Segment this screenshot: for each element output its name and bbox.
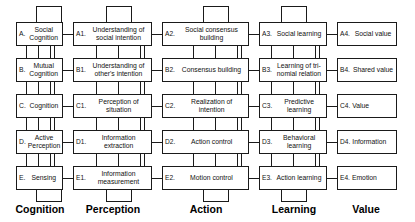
node-A1-label: Understanding of social intention	[88, 26, 149, 42]
node-B2-tag: B2.	[165, 66, 177, 73]
hconn-a-1-2	[63, 34, 73, 35]
node-A1[interactable]: A1. Understanding of social intention	[73, 22, 152, 46]
node-D2-tag: D2.	[165, 138, 177, 145]
node-C2-tag: C2.	[165, 102, 177, 109]
hconn-c-1-2	[63, 106, 73, 107]
column-caption-cognition: Cognition	[10, 203, 70, 215]
node-E4-tag: E4.	[340, 174, 352, 181]
loop-top-perception	[106, 6, 132, 22]
node-B-text: B.	[19, 66, 27, 74]
column-caption-action: Action	[178, 203, 234, 215]
hconn-a-2-3	[152, 34, 162, 35]
hconn-e-2-3	[152, 178, 162, 179]
node-E1-tag: E1.	[76, 174, 88, 181]
node-D2[interactable]: D2. Action control	[162, 130, 249, 154]
node-C4-tag: C4.	[340, 102, 352, 109]
loop-bottom-cognition	[36, 189, 62, 202]
node-D-label: Active Perception	[28, 134, 61, 150]
node-D1[interactable]: D1. Information extraction	[73, 130, 152, 154]
node-A2-tag: A2.	[165, 30, 177, 37]
node-E[interactable]: E. Sensing	[16, 166, 63, 190]
node-C3-label: Predictive learning	[274, 98, 324, 114]
node-B1[interactable]: B1. Understanding of other's intention	[73, 58, 152, 82]
node-B1-tag: B1.	[76, 66, 88, 73]
node-E1-label: Information measurement	[88, 170, 149, 186]
node-C1-tag: C1.	[76, 102, 88, 109]
node-B4-label: Shared value	[352, 66, 394, 74]
node-A2-label: Social consensus building	[177, 26, 246, 42]
hconn-d-3-4	[249, 142, 259, 143]
node-D3-tag: D3.	[262, 138, 274, 145]
node-E3-tag: E3.	[262, 174, 274, 181]
node-B[interactable]: B. Mutual Cognition	[16, 58, 63, 82]
hconn-c-4-5	[327, 106, 337, 107]
hconn-e-1-2	[63, 178, 73, 179]
node-A3-tag: A3.	[262, 30, 274, 37]
hconn-a-4-5	[327, 34, 337, 35]
node-D4-tag: D4.	[340, 138, 352, 145]
node-C4[interactable]: C4. Value	[337, 94, 397, 118]
hconn-e-4-5	[327, 178, 337, 179]
node-B3[interactable]: B3. Learning of tri-nomial relation	[259, 58, 327, 82]
node-B4-tag: B4.	[340, 66, 352, 73]
node-D3[interactable]: D3. Behavioral learning	[259, 130, 327, 154]
node-A3-label: Social learning	[274, 30, 324, 38]
node-B3-tag: B3.	[262, 66, 274, 73]
node-C3-tag: C3.	[262, 102, 274, 109]
node-E2[interactable]: E2. Motion control	[162, 166, 249, 190]
node-A1-tag: A1.	[76, 30, 88, 37]
node-B-label: Mutual Cognition	[27, 62, 60, 78]
loop-top-cognition	[36, 6, 62, 22]
node-D4[interactable]: D4. Information	[337, 130, 397, 154]
node-A-text: A.	[19, 30, 27, 38]
hconn-d-4-5	[327, 142, 337, 143]
node-A4-label: Social value	[352, 30, 394, 38]
node-C2-label: Realization of intention	[177, 98, 246, 114]
node-E4[interactable]: E4. Emotion	[337, 166, 397, 190]
node-D1-label: Information extraction	[88, 134, 149, 150]
hconn-b-1-2	[63, 70, 73, 71]
node-C[interactable]: C. Cognition	[16, 94, 63, 118]
loop-top-learning	[281, 6, 307, 22]
node-E3[interactable]: E3. Action learning	[259, 166, 327, 190]
node-E-label: Sensing	[27, 174, 60, 182]
node-E3-label: Action learning	[274, 174, 324, 182]
hconn-a-3-4	[249, 34, 259, 35]
node-A-label: Social Cognition	[27, 26, 60, 42]
node-A[interactable]: A. Social Cognition	[16, 22, 63, 46]
node-C1[interactable]: C1. Perception of situation	[73, 94, 152, 118]
node-B4[interactable]: B4. Shared value	[337, 58, 397, 82]
node-B1-label: Understanding of other's intention	[88, 62, 149, 78]
hconn-c-3-4	[249, 106, 259, 107]
node-A2[interactable]: A2. Social consensus building	[162, 22, 249, 46]
node-D-text: D.	[19, 138, 28, 146]
column-caption-learning: Learning	[264, 203, 324, 215]
column-caption-perception: Perception	[80, 203, 146, 215]
node-D3-label: Behavioral learning	[274, 134, 324, 150]
hconn-d-2-3	[152, 142, 162, 143]
node-E1[interactable]: E1. Information measurement	[73, 166, 152, 190]
node-E-text: E.	[19, 174, 27, 182]
loop-top-action	[203, 6, 229, 22]
node-B2-label: Consensus building	[177, 66, 246, 74]
hconn-b-4-5	[327, 70, 337, 71]
node-D2-label: Action control	[177, 138, 246, 146]
node-D[interactable]: D. Active Perception	[16, 130, 63, 154]
node-E4-label: Emotion	[352, 174, 394, 182]
node-C-label: Cognition	[28, 102, 60, 110]
node-B3-label: Learning of tri-nomial relation	[274, 62, 324, 78]
hconn-b-3-4	[249, 70, 259, 71]
hconn-b-2-3	[152, 70, 162, 71]
node-E2-label: Motion control	[177, 174, 246, 182]
hconn-d-1-2	[63, 142, 73, 143]
hconn-e-3-4	[249, 178, 259, 179]
node-D4-label: Information	[352, 138, 394, 146]
node-C1-label: Perception of situation	[88, 98, 149, 114]
node-C-text: C.	[19, 102, 28, 110]
node-C2[interactable]: C2. Realization of intention	[162, 94, 249, 118]
node-A3[interactable]: A3. Social learning	[259, 22, 327, 46]
node-A4[interactable]: A4. Social value	[337, 22, 397, 46]
node-C3[interactable]: C3. Predictive learning	[259, 94, 327, 118]
loop-bottom-action	[203, 189, 229, 202]
node-B2[interactable]: B2. Consensus building	[162, 58, 249, 82]
